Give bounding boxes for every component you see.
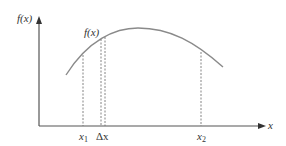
x2-label: x2 [197,131,206,144]
curve-label: f(x) [84,27,99,38]
area-under-curve-diagram [0,0,286,146]
x-axis-arrow-icon [258,123,266,129]
y-axis-label: f(x) [17,13,32,24]
x2-label-subscript: 2 [202,135,206,144]
x1-label: x1 [79,131,88,144]
x1-label-subscript: 1 [84,135,88,144]
delta-x-label: Δx [96,131,109,142]
x-axis-label: x [268,120,273,131]
y-axis-arrow-icon [36,16,42,24]
